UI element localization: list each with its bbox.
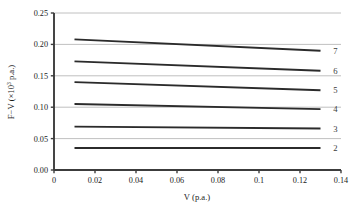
x-tick-label: 0 bbox=[52, 176, 56, 185]
y-tick-label: 0.20 bbox=[34, 40, 48, 49]
x-tick-label: 0.02 bbox=[88, 176, 102, 185]
x-tick-label: 0.12 bbox=[293, 176, 307, 185]
series-label-2: 2 bbox=[333, 143, 337, 153]
x-tick-label: 0.06 bbox=[170, 176, 184, 185]
y-tick-label: 0.10 bbox=[34, 103, 48, 112]
svg-text:F−V (×103 p.a.): F−V (×103 p.a.) bbox=[6, 65, 16, 119]
y-tick-label: 0.00 bbox=[34, 166, 48, 175]
series-label-5: 5 bbox=[333, 85, 337, 95]
y-axis-title: F−V (×103 p.a.) bbox=[6, 65, 16, 119]
y-axis-title-prefix: F−V (×10 bbox=[6, 85, 16, 119]
x-tick-label: 0.08 bbox=[211, 176, 225, 185]
series-label-3: 3 bbox=[333, 124, 337, 134]
y-tick-label: 0.25 bbox=[34, 9, 48, 18]
x-tick-label: 0.1 bbox=[254, 176, 264, 185]
y-tick-label: 0.05 bbox=[34, 135, 48, 144]
line-chart: 00.020.040.060.080.10.120.14 0.000.050.1… bbox=[0, 0, 353, 210]
x-axis-title: V (p.a.) bbox=[184, 192, 210, 202]
x-tick-label: 0.04 bbox=[129, 176, 143, 185]
x-tick-label: 0.14 bbox=[334, 176, 348, 185]
series-label-4: 4 bbox=[333, 104, 338, 114]
chart-figure: 00.020.040.060.080.10.120.14 0.000.050.1… bbox=[0, 0, 353, 210]
y-axis-title-suffix: p.a.) bbox=[6, 65, 16, 83]
series-label-6: 6 bbox=[333, 66, 338, 76]
y-tick-label: 0.15 bbox=[34, 72, 48, 81]
series-label-7: 7 bbox=[333, 46, 338, 56]
